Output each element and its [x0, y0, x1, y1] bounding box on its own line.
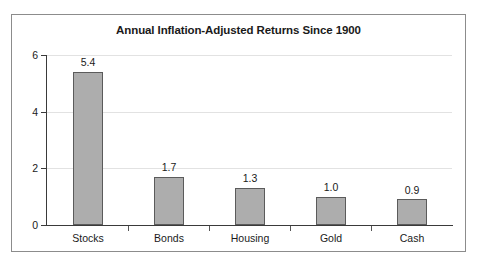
category-label: Bonds [129, 232, 209, 244]
x-tick-mark [128, 226, 129, 231]
category-label: Cash [372, 232, 452, 244]
chart-title: Annual Inflation-Adjusted Returns Since … [11, 24, 466, 36]
bar-value-label: 1.7 [144, 161, 194, 173]
plot-area [47, 55, 452, 225]
bar [154, 177, 184, 225]
category-label: Housing [210, 232, 290, 244]
y-tick-label: 6 [14, 49, 38, 61]
x-tick-mark [290, 226, 291, 231]
category-label: Gold [291, 232, 371, 244]
bar-value-label: 0.9 [387, 184, 437, 196]
bar [316, 197, 346, 225]
bar [235, 188, 265, 225]
y-tick-label: 4 [14, 106, 38, 118]
bar-value-label: 5.4 [63, 56, 113, 68]
y-tick-label: 0 [14, 219, 38, 231]
y-tick-label: 2 [14, 162, 38, 174]
x-axis-line [46, 225, 453, 226]
x-tick-mark [209, 226, 210, 231]
bar [397, 199, 427, 225]
bar-value-label: 1.3 [225, 172, 275, 184]
bar [73, 72, 103, 225]
bar-chart: Annual Inflation-Adjusted Returns Since … [0, 0, 478, 269]
x-tick-mark [371, 226, 372, 231]
bar-value-label: 1.0 [306, 181, 356, 193]
category-label: Stocks [48, 232, 128, 244]
